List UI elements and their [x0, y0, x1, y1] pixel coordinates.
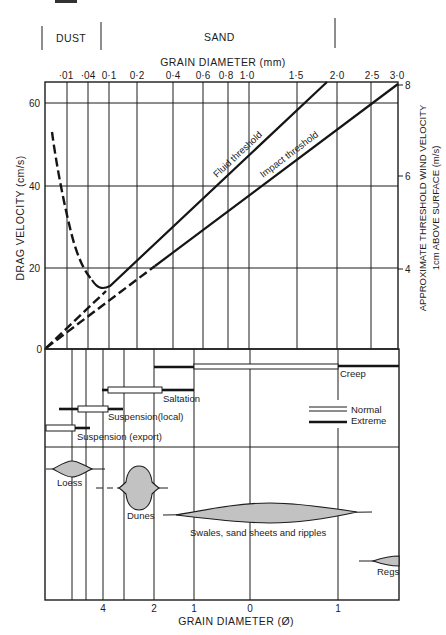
left-tick: 60	[29, 98, 41, 109]
bedforms: Loess Dunes Swales, sand sheets and ripp…	[46, 461, 399, 577]
left-axis: 60 40 20 0 DRAG VELOCITY (cm/s)	[14, 98, 42, 355]
top-axis-title: GRAIN DIAMETER (mm)	[160, 56, 285, 68]
loess-label: Loess	[57, 477, 83, 488]
impact-threshold-dashed	[46, 266, 155, 348]
suspension-local-label: Suspension(local)	[108, 411, 184, 422]
bottom-tick: 4	[100, 603, 106, 614]
swales-label: Swales, sand sheets and ripples	[190, 527, 326, 538]
clipped-caption-fragment	[55, 0, 77, 3]
saltation-normal-bar	[108, 387, 162, 393]
swales-distribution	[176, 503, 357, 523]
top-tick: 3·0	[390, 70, 405, 81]
top-tick: 1·5	[289, 70, 304, 81]
right-tick: 4	[405, 264, 411, 275]
bottom-tick: 1	[335, 603, 341, 614]
left-axis-title: DRAG VELOCITY (cm/s)	[14, 155, 26, 280]
right-axis-title-line1: APPROXIMATE THRESHOLD WIND VELOCITY	[417, 104, 428, 311]
top-tick: ·04	[81, 70, 96, 81]
top-tick: 2·0	[330, 70, 345, 81]
suspension-export-normal-bar	[46, 425, 75, 431]
right-axis-title-line2: 1cm ABOVE SURFACE (m/s)	[430, 146, 441, 271]
legend-extreme-label: Extreme	[351, 415, 386, 426]
saltation-label: Saltation	[163, 393, 200, 404]
top-tick: 0·1	[102, 70, 117, 81]
bottom-axis-title: GRAIN DIAMETER (Ø)	[178, 615, 294, 627]
fluid-threshold-dashed-curve	[52, 132, 92, 280]
top-tick: 0·6	[196, 70, 211, 81]
top-tick: ·01	[59, 70, 74, 81]
legend-normal-label: Normal	[351, 404, 382, 415]
fluid-threshold-curve	[92, 82, 327, 288]
dust-label: DUST	[56, 32, 86, 44]
impact-threshold-label: Impact threshold	[258, 129, 321, 180]
top-tick: 0·2	[130, 70, 145, 81]
left-tick: 0	[36, 344, 42, 355]
top-tick: 0·4	[166, 70, 181, 81]
right-tick: 6	[405, 171, 411, 182]
right-tick: 8	[405, 80, 411, 91]
sediment-transport-chart: DUST SAND GRAIN DIAMETER (mm) ·01 ·04 0·…	[0, 0, 446, 635]
threshold-curves: Fluid threshold Impact threshold	[46, 82, 398, 348]
bottom-tick: 2	[151, 603, 157, 614]
left-tick: 40	[29, 181, 41, 192]
right-axis: 8 6 4 APPROXIMATE THRESHOLD WIND VELOCIT…	[398, 80, 441, 311]
regs-distribution	[373, 556, 399, 566]
bottom-axis: 4 2 1 0 1 GRAIN DIAMETER (Ø)	[100, 603, 341, 627]
fluid-threshold-label: Fluid threshold	[211, 129, 264, 180]
suspension-export-label: Suspension (export)	[77, 431, 162, 442]
top-tick: 1·0	[240, 70, 255, 81]
impact-threshold-curve	[155, 84, 398, 266]
lower-plot-frame	[45, 349, 399, 600]
size-class-header: DUST SAND	[42, 18, 335, 50]
bottom-tick: 1	[191, 603, 197, 614]
dunes-label: Dunes	[127, 510, 155, 521]
suspension-local-normal-bar	[78, 406, 108, 412]
regs-label: Regs	[377, 566, 399, 577]
top-tick: 2·5	[365, 70, 380, 81]
creep-normal-bar	[194, 364, 338, 369]
top-axis: GRAIN DIAMETER (mm) ·01 ·04 0·1 0·2 0·4 …	[59, 56, 405, 81]
top-tick: 0·8	[219, 70, 234, 81]
sand-label: SAND	[204, 31, 235, 43]
creep-label: Creep	[340, 368, 366, 379]
dunes-distribution	[119, 466, 159, 510]
bottom-tick: 0	[247, 603, 253, 614]
legend: Normal Extreme	[306, 400, 386, 428]
left-tick: 20	[29, 263, 41, 274]
lower-plot-grid	[45, 349, 399, 600]
fluid-threshold-extrapolation	[46, 291, 106, 348]
